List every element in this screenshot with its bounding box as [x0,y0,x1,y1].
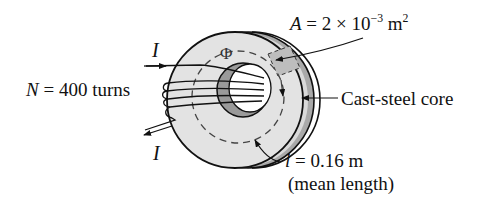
turns-symbol: N [26,79,39,100]
area-label: A = 2 × 10−3 m2 [290,14,409,33]
area-equals: = [306,13,317,34]
current-out-arrow-icon [144,126,172,135]
area-times: × [336,13,347,34]
length-label: l = 0.16 m [285,151,363,170]
length-symbol: l [285,150,290,171]
current-top-label: I [152,40,159,60]
area-exponent: −3 [371,12,384,25]
area-mantissa: 2 [322,13,332,34]
flux-label: Φ [220,45,232,62]
length-value: 0.16 m [311,150,364,171]
core-label: Cast-steel core [341,89,453,108]
area-symbol: A [290,13,302,34]
turns-equals: = [43,79,54,100]
turns-value: 400 turns [59,79,130,100]
area-unit-exponent: 2 [403,12,409,25]
current-bottom-label: I [153,143,160,163]
length-equals: = [295,150,306,171]
length-note: (mean length) [288,174,394,193]
area-unit: m [388,13,403,34]
turns-label: N = 400 turns [26,80,130,99]
toroid-diagram: I N = 400 turns I Φ A = 2 × 10−3 m2 Cast… [0,0,481,208]
area-base: 10 [352,13,371,34]
